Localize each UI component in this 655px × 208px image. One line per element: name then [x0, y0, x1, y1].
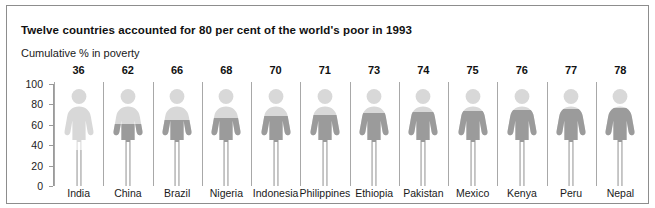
column-divider — [497, 82, 498, 186]
value-label: 78 — [596, 65, 645, 76]
y-axis-tick: 40 — [49, 145, 53, 146]
page-title: Twelve countries accounted for 80 per ce… — [21, 24, 412, 36]
value-label: 74 — [399, 65, 448, 76]
pictogram-column: 73Ethiopia — [350, 84, 399, 186]
pictogram-column: 78Nepal — [596, 84, 645, 186]
column-divider — [399, 82, 400, 186]
plot-area: 100806040200 36India62China66Brazil68Nig… — [53, 84, 645, 186]
y-axis-tick-label: 60 — [31, 120, 43, 131]
y-axis-tick-label: 0 — [37, 181, 43, 192]
person-pictogram — [308, 86, 342, 186]
value-label: 76 — [497, 65, 546, 76]
value-label: 62 — [103, 65, 152, 76]
value-label: 36 — [54, 65, 103, 76]
column-divider — [103, 82, 104, 186]
value-label: 70 — [251, 65, 300, 76]
person-pictogram — [456, 86, 490, 186]
person-pictogram — [357, 86, 391, 186]
person-pictogram — [505, 86, 539, 186]
y-axis-tick: 80 — [49, 104, 53, 105]
pictogram-column: 66Brazil — [153, 84, 202, 186]
value-label: 68 — [202, 65, 251, 76]
pictogram-column: 77Peru — [547, 84, 596, 186]
y-axis-tick-label: 40 — [31, 140, 43, 151]
pictogram-column: 75Mexico — [448, 84, 497, 186]
y-axis-tick: 20 — [49, 166, 53, 167]
person-pictogram — [259, 86, 293, 186]
pictogram-columns: 36India62China66Brazil68Nigeria70Indones… — [54, 84, 645, 186]
country-label: Nepal — [590, 188, 651, 199]
pictogram-column: 76Kenya — [497, 84, 546, 186]
column-divider — [596, 82, 597, 186]
person-pictogram — [62, 86, 96, 186]
pictogram-column: 70Indonesia — [251, 84, 300, 186]
column-divider — [448, 82, 449, 186]
column-divider — [153, 82, 154, 186]
person-pictogram — [554, 86, 588, 186]
poverty-pictogram-chart: Twelve countries accounted for 80 per ce… — [0, 0, 655, 208]
pictogram-column: 71Philippines — [300, 84, 349, 186]
person-pictogram — [603, 86, 637, 186]
value-label: 75 — [448, 65, 497, 76]
person-pictogram — [406, 86, 440, 186]
pictogram-column: 36India — [54, 84, 103, 186]
column-divider — [202, 82, 203, 186]
pictogram-column: 74Pakistan — [399, 84, 448, 186]
value-label: 66 — [153, 65, 202, 76]
column-divider — [350, 82, 351, 186]
axis-caption: Cumulative % in poverty — [21, 47, 140, 59]
person-pictogram — [111, 86, 145, 186]
value-label: 73 — [350, 65, 399, 76]
value-label: 77 — [547, 65, 596, 76]
y-axis-tick-label: 80 — [31, 99, 43, 110]
value-label: 71 — [300, 65, 349, 76]
column-divider — [300, 82, 301, 186]
column-divider — [547, 82, 548, 186]
person-pictogram — [209, 86, 243, 186]
y-axis-tick-label: 100 — [25, 79, 43, 90]
pictogram-column: 68Nigeria — [202, 84, 251, 186]
y-axis-tick: 60 — [49, 125, 53, 126]
y-axis-tick: 0 — [49, 186, 53, 187]
y-axis-tick: 100 — [49, 84, 53, 85]
y-axis-tick-label: 20 — [31, 160, 43, 171]
column-divider — [54, 82, 55, 186]
pictogram-column: 62China — [103, 84, 152, 186]
column-divider — [251, 82, 252, 186]
person-pictogram — [160, 86, 194, 186]
